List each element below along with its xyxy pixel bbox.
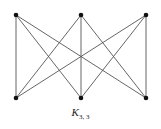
node-a2 (79, 13, 84, 18)
node-b2 (79, 96, 84, 101)
node-b3 (144, 96, 149, 101)
node-a1 (14, 13, 19, 18)
caption-subscript: 3, 3 (79, 113, 90, 121)
node-a3 (144, 13, 149, 18)
caption-title: K (72, 106, 79, 118)
edges (16, 15, 146, 98)
graph-caption: K3, 3 (0, 106, 161, 121)
node-b1 (14, 96, 19, 101)
